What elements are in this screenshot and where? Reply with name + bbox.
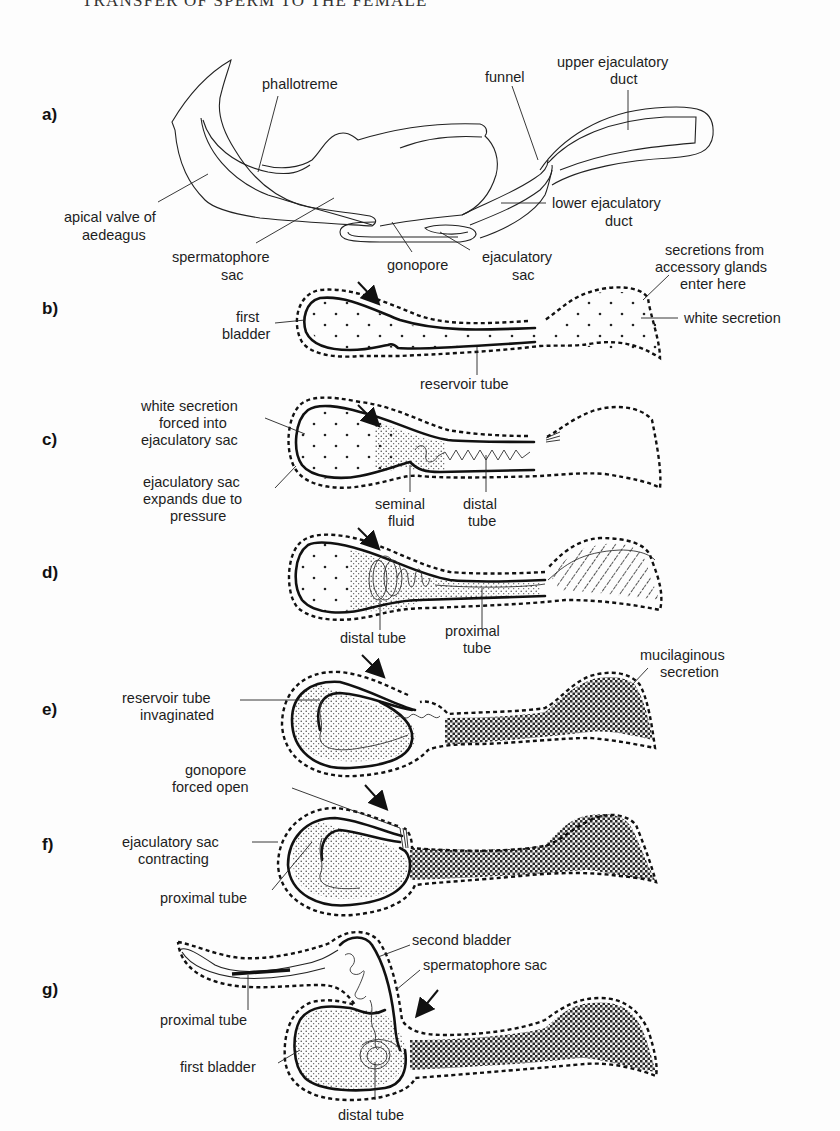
panel-d-letter: d) [42, 563, 58, 582]
mucilaginous-leader [632, 668, 648, 685]
label-contracting-1: ejaculatory sac [122, 834, 219, 850]
mucilaginous-fill-e [445, 677, 653, 745]
gonopore-forced-leader [292, 788, 400, 828]
label-spermatophore-1: spermatophore [172, 249, 270, 265]
label-proximal-tube-g: proximal tube [160, 1012, 247, 1028]
figure-page: TRANSFER OF SPERM TO THE FEMALE [0, 0, 840, 1131]
apical-valve-leader [158, 174, 208, 202]
label-secretions-2: accessory glands [655, 259, 767, 275]
label-spermatophore-sac-g: spermatophore sac [423, 957, 547, 973]
label-spermatophore-2: sac [221, 267, 244, 283]
label-ejac-sac-1: ejaculatory [482, 249, 553, 265]
label-white-forced-3: ejaculatory sac [141, 432, 238, 448]
second-bladder-wavy-g [345, 954, 366, 999]
panel-d: d) distal tube proximal tube [42, 528, 661, 656]
label-seminal-2: fluid [388, 513, 415, 529]
label-proximal-2-d: tube [463, 640, 491, 656]
spermatophore-leader [256, 198, 334, 243]
panel-g-letter: g) [42, 980, 58, 999]
label-white-secretion: white secretion [683, 310, 781, 326]
label-mucilaginous-2: secretion [660, 664, 719, 680]
label-gonopore-2-f: forced open [172, 779, 249, 795]
spermatophore-sac-leader [396, 970, 420, 990]
label-second-bladder: second bladder [412, 932, 511, 948]
label-reservoir-inv-2: invaginated [140, 707, 214, 723]
aedeagus-body-outline [262, 124, 497, 215]
label-proximal-1-d: proximal [445, 623, 500, 639]
label-gonopore-1-f: gonopore [185, 762, 246, 778]
pressure-arrow-f [365, 785, 383, 805]
label-distal-tube-g: distal tube [338, 1107, 404, 1123]
first-bladder-fill [307, 298, 545, 349]
panel-a-letter: a) [42, 105, 57, 124]
label-secretions-3: enter here [680, 276, 746, 292]
label-white-forced-2: forced into [159, 415, 227, 431]
sperm-transfer-diagram: a) [0, 0, 840, 1131]
upper-ejaculatory-duct-outline [540, 107, 713, 185]
label-mucilaginous-1: mucilaginous [640, 647, 725, 663]
panel-a: a) [42, 54, 713, 283]
label-upper-duct-1: upper ejaculatory [557, 54, 669, 70]
label-expands-3: pressure [170, 508, 226, 524]
label-upper-duct-2: duct [610, 71, 637, 87]
expands-leader [275, 466, 296, 488]
gonopore-strands-f [400, 828, 408, 848]
label-distal-1: distal [463, 496, 497, 512]
first-bladder-leader [275, 320, 305, 323]
label-reservoir-tube: reservoir tube [420, 376, 509, 392]
sac-fill-e [292, 685, 415, 762]
proximal-tube-arm-g [180, 949, 338, 972]
mucilaginous-fill-g [410, 1002, 656, 1072]
label-first-bladder-2: bladder [222, 326, 271, 342]
label-distal-2: tube [468, 513, 496, 529]
label-contracting-2: contracting [138, 851, 209, 867]
label-expands-2: expands due to [143, 491, 242, 507]
secretions-leader [643, 275, 669, 300]
panel-g: g) second bladder spe [42, 932, 657, 1123]
label-proximal-tube-f: proximal tube [160, 890, 247, 906]
label-ejac-sac-2: sac [512, 267, 535, 283]
pressure-arrow-g [420, 990, 438, 1012]
label-distal-tube-d: distal tube [340, 630, 406, 646]
label-funnel: funnel [485, 69, 525, 85]
panel-c: c) white secretion forced into ejaculato… [42, 398, 660, 529]
label-white-forced-1: white secretion [140, 398, 238, 414]
panel-e-letter: e) [42, 700, 57, 719]
panel-c-letter: c) [42, 430, 57, 449]
label-lower-duct-1: lower ejaculatory [552, 195, 662, 211]
panel-b-letter: b) [42, 299, 58, 318]
pressure-arrow-b [358, 282, 375, 300]
label-gonopore: gonopore [387, 257, 448, 273]
panel-f-letter: f) [42, 835, 53, 854]
label-seminal-1: seminal [375, 496, 425, 512]
label-apical-1: apical valve of [64, 209, 157, 225]
label-lower-duct-2: duct [605, 213, 632, 229]
label-apical-2: aedeagus [82, 227, 146, 243]
pressure-arrow-e [362, 655, 380, 673]
funnel-leader [512, 86, 538, 160]
phallotreme-leader [258, 96, 278, 172]
panel-f: f) gonopore forced open ejaculatory sac … [42, 762, 656, 915]
panel-e: e) mucilaginous secretion reservoir tube… [42, 647, 725, 776]
label-reservoir-inv-1: reservoir tube [122, 690, 211, 706]
label-phallotreme: phallotreme [262, 76, 338, 92]
ducts-frayed-c [546, 432, 560, 442]
label-first-bladder-g: first bladder [180, 1059, 256, 1075]
label-expands-1: ejaculatory sac [143, 474, 240, 490]
label-secretions-1: secretions from [665, 242, 764, 258]
label-first-bladder-1: first [236, 309, 259, 325]
